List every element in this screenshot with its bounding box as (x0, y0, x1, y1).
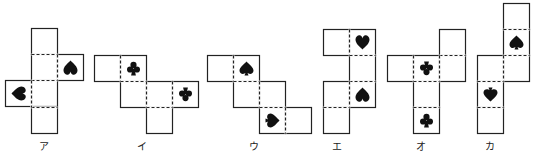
net-face (286, 108, 312, 134)
net-face (324, 82, 350, 108)
cube-net-0 (6, 29, 84, 134)
net-label-a: ア (34, 138, 54, 153)
cube-net-4 (388, 30, 466, 134)
net-face (147, 108, 173, 134)
cube-net-1 (95, 56, 199, 134)
net-label-e: エ (327, 138, 347, 153)
net-face (414, 82, 440, 108)
net-face (260, 82, 286, 108)
net-label-o: オ (411, 138, 431, 153)
net-label-u: ウ (244, 138, 264, 153)
nets-canvas (0, 0, 535, 158)
net-face (478, 56, 504, 82)
cube-nets-diagram: ア イ ウ エ オ カ (0, 0, 535, 158)
cube-net-3 (324, 30, 376, 134)
net-face (440, 56, 466, 82)
net-face (324, 30, 350, 56)
net-face (208, 56, 234, 82)
net-face (234, 82, 260, 108)
cube-net-2 (208, 56, 312, 134)
net-face (32, 108, 58, 134)
net-face (478, 108, 504, 134)
net-face (350, 56, 376, 82)
net-face (32, 29, 58, 55)
net-label-ka: カ (480, 138, 500, 153)
net-face (32, 81, 58, 107)
net-face (95, 56, 121, 82)
net-face (504, 56, 530, 82)
net-face (324, 108, 350, 134)
net-face (121, 82, 147, 108)
net-face (504, 4, 530, 30)
net-face (32, 55, 58, 81)
net-label-i: イ (132, 138, 152, 153)
cube-net-5 (478, 4, 530, 134)
net-face (440, 30, 466, 56)
net-face (147, 82, 173, 108)
net-face (388, 56, 414, 82)
